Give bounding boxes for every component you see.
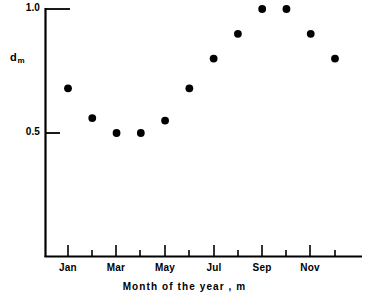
- x-axis-title: Month of the year , m: [0, 281, 369, 292]
- x-tick-label-sep: Sep: [242, 262, 282, 273]
- data-point-mar: [113, 129, 121, 137]
- y-tick-label-1.0: 1.0: [8, 2, 40, 13]
- y-axis-label-subscript: m: [17, 56, 24, 65]
- scatter-chart-figure: dm 1.0 0.5 Jan Mar May Jul Sep Nov Month…: [0, 0, 369, 300]
- data-point-feb: [88, 114, 96, 122]
- data-point-aug: [234, 30, 242, 38]
- x-axis-ticks: [68, 245, 335, 256]
- data-point-jan: [64, 84, 72, 92]
- data-point-group: [64, 5, 339, 137]
- x-tick-label-nov: Nov: [290, 262, 330, 273]
- x-tick-label-jan: Jan: [48, 262, 88, 273]
- x-tick-label-may: May: [145, 262, 185, 273]
- plot-canvas: [0, 0, 369, 300]
- data-point-jun: [185, 84, 193, 92]
- axis-lines: [45, 8, 363, 257]
- data-point-jul: [210, 55, 218, 63]
- data-point-nov: [307, 30, 315, 38]
- data-point-oct: [283, 5, 291, 13]
- y-axis-label-main: d: [10, 51, 17, 63]
- y-tick-label-0.5: 0.5: [8, 126, 40, 137]
- data-point-apr: [137, 129, 145, 137]
- y-axis-label: dm: [10, 52, 24, 63]
- x-tick-label-jul: Jul: [194, 262, 234, 273]
- x-tick-label-mar: Mar: [96, 262, 136, 273]
- data-point-sep: [258, 5, 266, 13]
- data-point-dec: [331, 55, 339, 63]
- y-axis-ticks: [45, 9, 70, 133]
- data-point-may: [161, 117, 169, 125]
